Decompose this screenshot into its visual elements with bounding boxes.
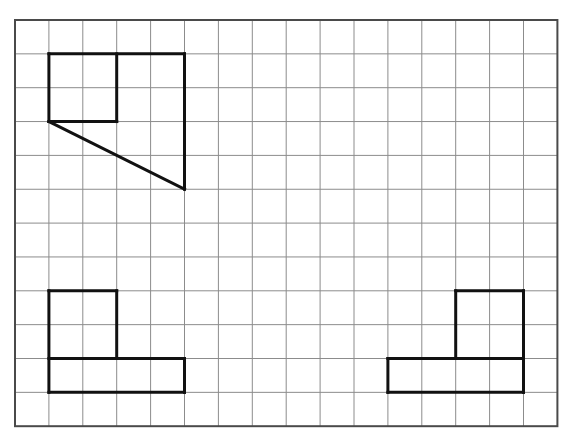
grid-stage	[0, 0, 574, 441]
grid-diagram-canvas	[0, 0, 574, 441]
grid-lines	[15, 20, 557, 426]
grid-svg	[0, 0, 574, 441]
